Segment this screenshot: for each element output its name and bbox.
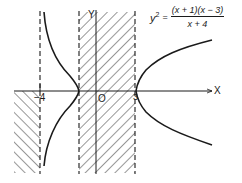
origin-label: O (98, 94, 106, 104)
excluded-region-middle (79, 12, 135, 173)
excluded-region-left (14, 91, 40, 173)
curve-left-branch-upper (44, 12, 79, 91)
equation-numerator: (x + 1)(x − 3) (171, 5, 225, 17)
equation-fraction: (x + 1)(x − 3) x + 4 (171, 5, 225, 29)
curve-right-branch-upper (136, 40, 212, 91)
curve-left-branch-lower (44, 91, 79, 166)
tick-label-3: 3 (133, 93, 138, 102)
tick-label-minus-4: −4 (34, 93, 45, 103)
equation-denominator: x + 4 (188, 17, 208, 29)
equals-sign: = (162, 12, 167, 22)
equation-lhs: y2 (150, 11, 159, 24)
curve-right-branch-lower (136, 91, 212, 145)
y-axis-label: Y (88, 10, 95, 20)
x-axis-label: X (214, 86, 221, 96)
equation: y2 = (x + 1)(x − 3) x + 4 (150, 5, 224, 29)
